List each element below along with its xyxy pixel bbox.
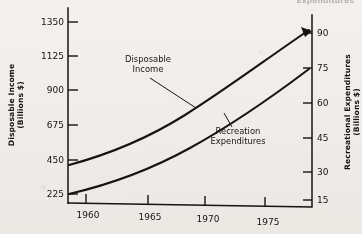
x-axis-tick-labels: 1960 1965 1970 1975	[77, 210, 280, 227]
x-tick-label-1960: 1960	[77, 210, 100, 220]
x-axis: 1960 1965 1970 1975	[68, 194, 312, 227]
right-tick-label-30: 30	[317, 167, 329, 177]
right-axis-title: Recreational Expenditures (Billions $)	[343, 54, 361, 170]
right-tick-label-60: 60	[317, 98, 329, 108]
left-axis-title-line1: Disposable Income	[7, 64, 16, 146]
left-axis-title: Disposable Income (Billions $)	[7, 64, 25, 146]
annotation-recreation-line2: Expenditures	[210, 136, 265, 146]
right-axis-title-line1: Recreational Expenditures	[343, 54, 352, 170]
series-line-disposable-income	[69, 30, 309, 165]
left-tick-label-900: 900	[47, 85, 64, 95]
left-tick-label-225: 225	[47, 189, 64, 199]
x-axis-baseline	[68, 203, 312, 207]
right-tick-label-15: 15	[317, 195, 328, 205]
annotation-disposable-income-line2: Income	[133, 64, 164, 74]
right-tick-label-45: 45	[317, 133, 328, 143]
right-axis-title-line2: (Billions $)	[352, 88, 361, 135]
x-tick-label-1970: 1970	[197, 214, 220, 224]
right-axis-ticks	[303, 33, 312, 200]
series-line-recreation-expenditures	[69, 69, 309, 194]
left-axis-title-line2: (Billions $)	[16, 81, 25, 128]
left-tick-label-1350: 1350	[41, 17, 64, 27]
right-tick-label-75: 75	[317, 63, 328, 73]
right-axis-tick-labels: 90 75 60 45 30 15	[317, 28, 329, 205]
annotation-disposable-income-line1: Disposable	[125, 54, 171, 64]
left-axis-ticks	[68, 22, 78, 194]
dual-axis-line-chart: 1350 1125 900 675 450 225 Disposable Inc…	[0, 0, 362, 234]
x-tick-label-1975: 1975	[257, 217, 280, 227]
annotation-recreation-line1: Recreation	[216, 126, 261, 136]
right-axis: 90 75 60 45 30 15 Recreational Expenditu…	[303, 15, 361, 206]
left-tick-label-1125: 1125	[41, 51, 64, 61]
x-tick-label-1965: 1965	[139, 212, 162, 222]
left-tick-label-675: 675	[47, 120, 64, 130]
right-tick-label-90: 90	[317, 28, 329, 38]
annotation-disposable-income-leader	[150, 78, 196, 108]
annotation-disposable-income: Disposable Income	[125, 54, 196, 108]
left-tick-label-450: 450	[47, 155, 64, 165]
left-axis-tick-labels: 1350 1125 900 675 450 225	[41, 17, 64, 199]
series-curves	[69, 30, 309, 194]
left-axis: 1350 1125 900 675 450 225 Disposable Inc…	[7, 8, 78, 203]
